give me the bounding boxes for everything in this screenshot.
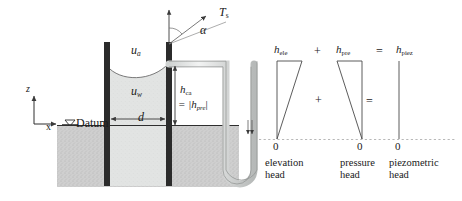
caption-piezometric-head: piezometric head — [389, 157, 439, 180]
operator-plus-top: + — [314, 45, 321, 57]
zero-tick-pressure: 0 — [357, 141, 363, 152]
contact-angle-label: α — [200, 24, 206, 36]
coordinate-axes — [34, 96, 56, 124]
caption-pressure-head: pressure head — [340, 157, 375, 180]
caption-pressure-line1: pressure — [340, 157, 375, 169]
plate-left — [104, 42, 110, 186]
surface-tension-label: Ts — [219, 6, 229, 19]
pressure-head-triangle — [337, 61, 362, 139]
caption-pressure-line2: head — [340, 169, 375, 181]
zero-tick-elevation: 0 — [273, 141, 279, 152]
piezometric-head-symbol: hpiez — [396, 44, 413, 56]
caption-elevation-head: elevation head — [265, 157, 303, 180]
caption-elevation-line1: elevation — [265, 157, 303, 169]
operator-equals-middle: = — [366, 95, 373, 107]
operator-plus-middle: + — [315, 94, 322, 106]
zero-tick-piezometric: 0 — [395, 141, 401, 152]
datum-label: Datum — [76, 117, 109, 129]
air-pressure-label: ua — [131, 44, 141, 57]
caption-piezometric-line1: piezometric — [389, 157, 439, 169]
capillary-rise-label: hca — [180, 84, 192, 96]
operator-equals-top: = — [376, 45, 383, 57]
water-column — [107, 63, 169, 186]
axis-label-x: x — [46, 122, 51, 132]
axis-label-z: z — [26, 84, 30, 94]
water-pressure-label: uw — [131, 85, 142, 98]
elevation-head-triangle — [277, 61, 302, 139]
plate-spacing-label: d — [138, 111, 144, 123]
pressure-head-symbol: hpre — [336, 44, 350, 56]
caption-elevation-line2: head — [265, 169, 303, 181]
caption-piezometric-line2: head — [389, 169, 439, 181]
elevation-head-symbol: hele — [274, 44, 287, 56]
capillary-rise-equation: = |hpre| — [178, 99, 208, 111]
surface-tension-vectors — [169, 10, 226, 44]
